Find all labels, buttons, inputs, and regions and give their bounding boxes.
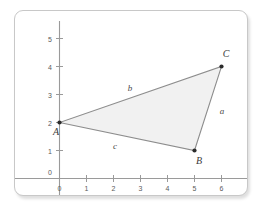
y-tick-label-2: 2 (48, 120, 52, 127)
vertex-label-b: B (196, 155, 202, 166)
figure-root: 0 1 2 3 4 5 6 0 1 2 3 4 5 A B C (0, 0, 262, 208)
x-tick-label-1: 1 (85, 185, 89, 192)
vertex-point-a (57, 120, 61, 124)
x-tick-label-2: 2 (112, 185, 116, 192)
plot-panel: 0 1 2 3 4 5 6 0 1 2 3 4 5 A B C (14, 10, 248, 196)
vertex-label-c: C (223, 48, 230, 59)
y-tick-label-1: 1 (48, 148, 52, 155)
y-tick-label-4: 4 (48, 64, 52, 71)
vertex-label-a: A (52, 126, 60, 137)
x-tick-label-3: 3 (139, 185, 143, 192)
x-tick-label-0: 0 (58, 185, 62, 192)
side-label-a: a (220, 106, 225, 116)
x-tick-label-6: 6 (220, 185, 224, 192)
side-label-b: b (128, 83, 133, 93)
triangle-fill (60, 67, 222, 151)
side-label-c: c (113, 141, 117, 151)
x-tick-label-4: 4 (166, 185, 170, 192)
y-tick-label-3: 3 (48, 92, 52, 99)
y-tick-label-0: 0 (48, 169, 52, 176)
vertex-point-c (219, 64, 223, 68)
vertex-point-b (192, 148, 196, 152)
coordinate-plane: 0 1 2 3 4 5 6 0 1 2 3 4 5 A B C (15, 11, 247, 195)
y-tick-label-5: 5 (48, 36, 52, 43)
x-tick-label-5: 5 (193, 185, 197, 192)
